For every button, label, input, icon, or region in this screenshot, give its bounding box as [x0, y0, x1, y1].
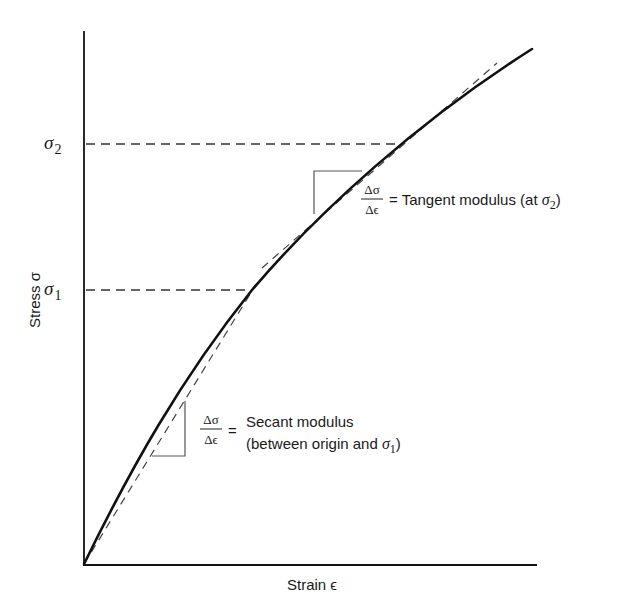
- secant-annotation: Δσ Δϵ = Secant modulus (between origin a…: [200, 412, 401, 456]
- reference-lines: [86, 144, 398, 290]
- secant-modulus-line1: Secant modulus: [246, 413, 354, 430]
- tangent-fraction-denominator: Δϵ: [365, 202, 379, 217]
- secant-equals: =: [228, 422, 237, 439]
- y-axis-label: Stress σ: [26, 271, 43, 328]
- tangent-annotation: Δσ Δϵ = Tangent modulus (at σ2): [361, 182, 561, 217]
- stress-strain-figure: σ2 σ1 Stress σ Strain ϵ Δσ Δϵ = Tangent …: [0, 0, 623, 607]
- sigma2-label: σ2: [44, 132, 61, 157]
- tangent-line: [262, 63, 497, 268]
- tangent-modulus-label: = Tangent modulus (at σ2): [389, 191, 561, 212]
- secant-line: [84, 278, 260, 564]
- tangent-slope-triangle: [314, 171, 362, 214]
- tangent-fraction-numerator: Δσ: [364, 182, 379, 197]
- stress-strain-curve: [84, 49, 532, 564]
- secant-fraction-denominator: Δϵ: [204, 432, 218, 447]
- secant-fraction-numerator: Δσ: [203, 412, 218, 427]
- x-axis-label: Strain ϵ: [287, 576, 337, 593]
- axes: [83, 31, 537, 565]
- secant-modulus-line2: (between origin and σ1): [246, 435, 401, 456]
- sigma1-label: σ1: [44, 278, 61, 303]
